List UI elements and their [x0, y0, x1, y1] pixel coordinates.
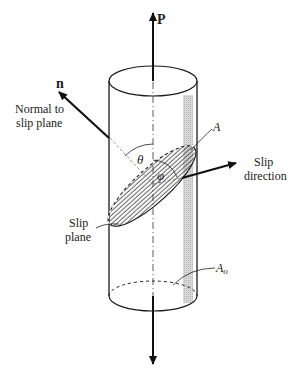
cylinder-shading [183, 95, 193, 303]
normal-caption-line2: slip plane [16, 116, 62, 130]
normal-arrow [59, 92, 109, 138]
area-a-leader [191, 129, 212, 150]
slip-direction-line2: direction [244, 169, 287, 183]
phi-label: φ [157, 168, 164, 183]
slip-plane-diagram: P n Normal to slip plane Slip direction … [0, 0, 302, 376]
slip-plane-line1: Slip [69, 216, 88, 230]
theta-label: θ [137, 152, 144, 167]
area-a-label: A [212, 120, 221, 134]
normal-symbol-label: n [56, 76, 64, 91]
slip-direction-line1: Slip [254, 155, 273, 169]
slip-plane-line2: plane [65, 230, 91, 244]
normal-caption-line1: Normal to [15, 102, 64, 116]
force-label: P [157, 12, 166, 27]
area-a0-subscript: o [223, 266, 228, 276]
area-a0-leader [173, 268, 215, 285]
area-a0-label: Ao [215, 261, 228, 276]
